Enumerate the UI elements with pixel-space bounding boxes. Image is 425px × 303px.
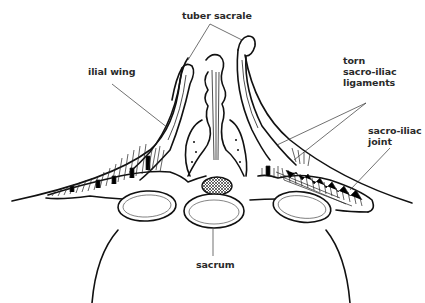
label-sacroiliac-joint-line2: joint bbox=[368, 136, 422, 147]
label-ilial-wing: ilial wing bbox=[88, 66, 135, 77]
label-torn-ligaments-line3: ligaments bbox=[343, 77, 397, 88]
right-ilial-wing bbox=[237, 36, 296, 165]
leader-tuber-sacrale-left bbox=[188, 24, 210, 60]
label-sacroiliac-joint: sacro-iliac joint bbox=[368, 125, 422, 147]
leader-sacroiliac-joint bbox=[350, 148, 390, 190]
leader-torn-ligaments-1 bbox=[277, 103, 366, 145]
label-sacroiliac-joint-line1: sacro-iliac bbox=[368, 125, 422, 136]
leader-ilial-wing bbox=[112, 84, 168, 128]
pelvis-diagram bbox=[0, 0, 425, 303]
leader-tuber-sacrale-right bbox=[210, 24, 242, 40]
label-torn-ligaments-line2: sacro-iliac bbox=[343, 66, 397, 77]
label-torn-ligaments: torn sacro-iliac ligaments bbox=[343, 55, 397, 88]
label-tuber-sacrale: tuber sacrale bbox=[182, 10, 252, 21]
vertebral-canal bbox=[202, 177, 232, 195]
label-sacrum: sacrum bbox=[196, 259, 234, 270]
label-torn-ligaments-line1: torn bbox=[343, 55, 397, 66]
